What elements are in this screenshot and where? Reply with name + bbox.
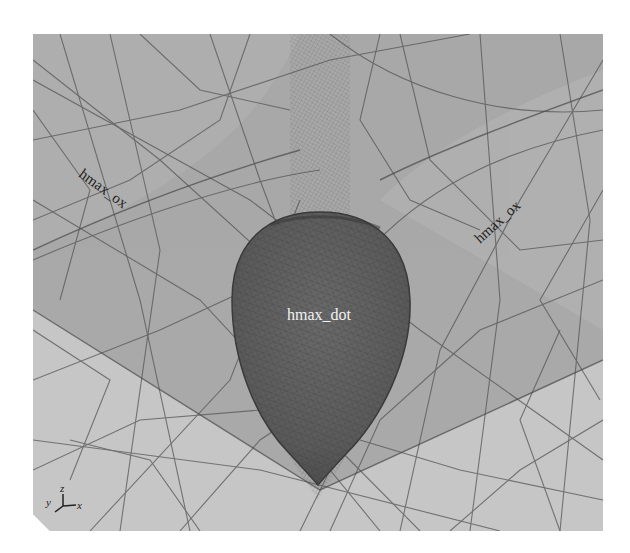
mesh-panel: hmax_ox hmax_ox hmax_dot z y x xyxy=(33,34,603,531)
axis-z-label: z xyxy=(59,482,65,494)
mesh-viewport[interactable]: hmax_ox hmax_ox hmax_dot z y x xyxy=(0,0,630,553)
axis-x-label: x xyxy=(76,499,82,511)
axis-y-label: y xyxy=(45,496,51,508)
label-center-region: hmax_dot xyxy=(287,306,352,323)
